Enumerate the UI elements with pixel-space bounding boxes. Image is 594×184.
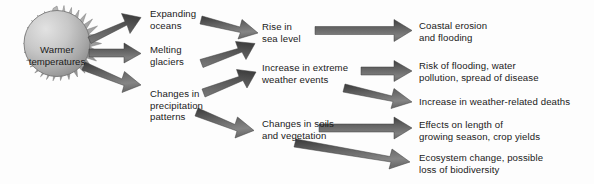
arrow-changes-precipitation-to-changes-soils bbox=[195, 108, 254, 138]
node-label-sun: Warmer temperatures bbox=[15, 44, 99, 68]
node-label-risk-flooding: Risk of flooding, water pollution, sprea… bbox=[419, 60, 539, 83]
node-label-melting-glaciers: Melting glaciers bbox=[150, 44, 184, 67]
node-label-weather-related-deaths: Increase in weather-related deaths bbox=[419, 96, 570, 108]
node-label-growing-season: Effects on length of growing season, cro… bbox=[419, 119, 540, 142]
node-label-coastal-erosion: Coastal erosion and flooding bbox=[419, 20, 487, 43]
node-label-changes-soils-vegetation: Changes in soils and vegetation bbox=[262, 118, 334, 141]
node-label-expanding-oceans: Expanding oceans bbox=[150, 8, 196, 31]
arrow-expanding-oceans-to-rise-sea-level bbox=[200, 16, 258, 39]
node-label-increase-extreme-weather: Increase in extreme weather events bbox=[262, 62, 348, 85]
arrow-melting-glaciers-to-rise-sea-level bbox=[200, 42, 255, 68]
arrow-increase-extreme-weather-to-weather-deaths bbox=[343, 84, 412, 109]
arrow-sun-to-expanding-oceans bbox=[88, 14, 141, 44]
arrow-rise-sea-level-to-coastal-erosion bbox=[315, 20, 412, 42]
node-label-rise-sea-level: Rise in sea level bbox=[262, 21, 301, 44]
arrow-changes-soils-to-ecosystem-change bbox=[294, 139, 410, 169]
arrow-increase-extreme-weather-to-risk-flooding bbox=[361, 61, 412, 82]
arrow-changes-precipitation-to-increase-extreme-weather bbox=[202, 70, 256, 98]
node-label-changes-precipitation: Changes in precipitation patterns bbox=[150, 88, 203, 123]
node-label-ecosystem-change: Ecosystem change, possible loss of biodi… bbox=[419, 152, 543, 175]
climate-effects-flowchart: Warmer temperatures Expanding oceans Mel… bbox=[0, 0, 594, 184]
